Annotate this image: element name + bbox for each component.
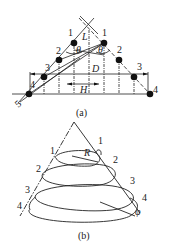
caption-b: (b) bbox=[78, 230, 90, 242]
arrow-icon bbox=[94, 83, 99, 86]
point-4-left bbox=[26, 91, 33, 98]
label-2-right: 2 bbox=[117, 44, 122, 55]
label-4-left: 4 bbox=[30, 79, 35, 90]
label-H: H bbox=[79, 84, 88, 95]
label-L: L bbox=[81, 31, 88, 42]
cone-generatrix-right bbox=[74, 122, 140, 213]
label-4-right: 4 bbox=[153, 84, 158, 95]
label-1-right: 1 bbox=[102, 27, 107, 38]
arrow-icon bbox=[30, 73, 35, 76]
point-3-left bbox=[41, 74, 48, 81]
arrow-icon bbox=[67, 83, 72, 86]
label-b-3-left: 3 bbox=[25, 184, 30, 195]
helix-start-curl bbox=[96, 150, 101, 155]
label-3-right: 3 bbox=[137, 61, 142, 72]
diagram-canvas: 1 1 2 2 3 3 4 4 5 L D H θ θ (a) 1 1 2 2 … bbox=[0, 0, 169, 249]
figure-b-labels: 1 1 2 2 3 3 4 4 R φ (b) bbox=[17, 135, 147, 242]
point-3-right bbox=[131, 74, 138, 81]
label-5: 5 bbox=[12, 98, 23, 110]
label-theta-left: θ bbox=[76, 44, 81, 55]
label-theta-right: θ bbox=[98, 44, 103, 55]
label-b-2-left: 2 bbox=[36, 163, 41, 174]
label-R: R bbox=[83, 147, 90, 158]
helix-turn-3 bbox=[35, 185, 133, 211]
label-b-3-right: 3 bbox=[130, 175, 135, 186]
label-b-1-right: 1 bbox=[98, 135, 103, 146]
point-2-left bbox=[56, 57, 63, 64]
label-b-4-right: 4 bbox=[142, 192, 147, 203]
label-b-2-right: 2 bbox=[113, 154, 118, 165]
caption-a: (a) bbox=[76, 107, 87, 119]
label-2-left: 2 bbox=[56, 45, 61, 56]
helix-turn-2 bbox=[42, 164, 115, 186]
label-3-left: 3 bbox=[45, 62, 50, 73]
cone-generatrix-left bbox=[20, 122, 74, 216]
label-phi: φ bbox=[135, 206, 141, 217]
cone-right-edge bbox=[79, 18, 150, 94]
point-2-right bbox=[116, 57, 123, 64]
label-b-4-left: 4 bbox=[17, 200, 22, 211]
label-D: D bbox=[91, 63, 100, 74]
label-b-1-left: 1 bbox=[50, 145, 55, 156]
label-1-left: 1 bbox=[68, 27, 73, 38]
arrow-icon bbox=[143, 73, 148, 76]
